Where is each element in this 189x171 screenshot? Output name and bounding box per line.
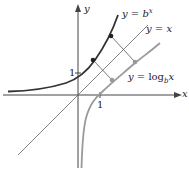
x-axis-label: x xyxy=(182,89,188,99)
x-axis-arrow-icon xyxy=(174,92,182,98)
y-axis-label: y xyxy=(84,4,90,14)
x-tick-1: 1 xyxy=(97,100,103,110)
identity-line-label: y = x xyxy=(146,24,172,34)
exp-point xyxy=(91,58,96,63)
y-tick-1: 1 xyxy=(69,68,75,78)
log-point xyxy=(133,60,138,65)
exponential-curve xyxy=(8,15,118,92)
y-axis-arrow-icon xyxy=(75,4,81,12)
log-point xyxy=(110,78,115,83)
exp-curve-label: y = bx xyxy=(122,8,153,19)
exp-point xyxy=(109,34,114,39)
log-curve-label: y = logbx xyxy=(128,72,174,85)
